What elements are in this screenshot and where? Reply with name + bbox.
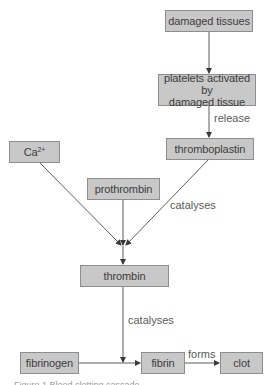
arrow-calcium-to-thrombin — [40, 163, 121, 245]
node-prothrombin: prothrombin — [87, 178, 160, 200]
node-fibrin-label: fibrin — [151, 357, 174, 369]
calcium-symbol: Ca — [24, 146, 38, 158]
edge-label-forms: forms — [188, 348, 216, 360]
node-thromboplastin-label: thromboplastin — [175, 143, 246, 155]
node-fibrin: fibrin — [141, 352, 185, 374]
node-clot: clot — [220, 352, 263, 374]
node-platelets-label-line2: damaged tissue — [169, 96, 245, 108]
node-damaged-tissues: damaged tissues — [165, 10, 253, 32]
node-damaged-tissues-label: damaged tissues — [168, 15, 250, 27]
figure-caption: Figure 1 Blood clotting cascade — [14, 378, 254, 385]
node-fibrinogen-label: fibrinogen — [26, 357, 73, 369]
node-calcium: Ca2+ — [9, 141, 60, 163]
edge-label-release: release — [214, 112, 250, 124]
node-platelets-label-line1: platelets activated by — [159, 72, 255, 96]
node-platelets: platelets activated by damaged tissue — [158, 74, 256, 106]
edge-label-catalyses-thromboplastin: catalyses — [170, 199, 216, 211]
node-fibrinogen: fibrinogen — [20, 352, 79, 374]
node-thrombin: thrombin — [80, 265, 169, 287]
node-calcium-label: Ca2+ — [24, 146, 46, 158]
node-thromboplastin: thromboplastin — [166, 138, 254, 160]
node-prothrombin-label: prothrombin — [95, 183, 153, 195]
edge-label-catalyses-thrombin: catalyses — [128, 314, 174, 326]
node-thrombin-label: thrombin — [104, 270, 146, 282]
calcium-charge: 2+ — [38, 146, 46, 153]
node-clot-label: clot — [233, 357, 250, 369]
